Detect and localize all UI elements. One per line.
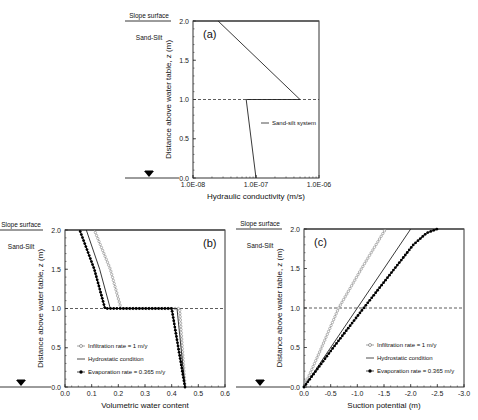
series-marker-evaporation	[174, 329, 177, 332]
series-marker-evaporation	[435, 228, 438, 231]
series-marker-infiltration	[375, 243, 377, 245]
series-marker-infiltration	[179, 312, 181, 314]
legend-entry-label: Hydrostatic condition	[88, 356, 144, 362]
series-marker-evaporation	[314, 370, 317, 373]
series-marker-infiltration	[94, 231, 96, 233]
series-marker-evaporation	[337, 339, 340, 342]
series-marker-evaporation	[172, 316, 175, 319]
legend: Infiltration rate = 1 m/yHydrostatic con…	[366, 342, 454, 374]
x-tick-label: 0.0	[299, 390, 309, 397]
series-marker-evaporation	[353, 319, 356, 322]
series-marker-evaporation	[106, 307, 109, 310]
x-tick-label: 0.6	[220, 390, 230, 397]
series-marker-evaporation	[322, 360, 325, 363]
panel-label: (b)	[203, 237, 216, 249]
series-marker-evaporation	[101, 297, 104, 300]
chart-panel-b: 0.00.51.01.52.00.00.10.20.30.40.50.6Volu…	[0, 221, 230, 410]
y-axis-title: Distance above water table, z (m)	[164, 40, 173, 159]
figure-canvas: 0.00.51.01.52.01.0E-081.0E-071.0E-06Hydr…	[0, 0, 478, 420]
series-marker-evaporation	[181, 373, 184, 376]
series-marker-evaporation	[86, 248, 89, 251]
series-marker-evaporation	[355, 317, 358, 320]
series-marker-infiltration	[341, 301, 343, 303]
series-marker-evaporation	[419, 237, 422, 240]
x-tick-label: 0.1	[87, 390, 97, 397]
series-marker-evaporation	[316, 368, 319, 371]
y-tick-label: 2.0	[290, 226, 300, 233]
series-marker-infiltration	[179, 316, 181, 318]
series-marker-infiltration	[382, 232, 384, 234]
series-marker-evaporation	[91, 263, 94, 266]
series-marker-evaporation	[374, 291, 377, 294]
series-marker-evaporation	[178, 354, 181, 357]
series-marker-infiltration	[321, 345, 323, 347]
series-marker-evaporation	[372, 294, 375, 297]
series-marker-infiltration	[109, 267, 111, 269]
series-marker-infiltration	[99, 243, 101, 245]
series-marker-evaporation	[175, 335, 178, 338]
series-marker-evaporation	[335, 342, 338, 345]
series-marker-infiltration	[112, 279, 114, 281]
series-marker-infiltration	[111, 273, 113, 275]
slope-surface-label: Slope surface	[129, 12, 169, 20]
series-marker-infiltration	[180, 325, 182, 327]
series-marker-infiltration	[327, 330, 329, 332]
series-marker-evaporation	[97, 282, 100, 285]
y-tick-label: 2.0	[51, 227, 61, 234]
series-marker-evaporation	[167, 307, 170, 310]
y-axis-title: Distance above water table, z (m)	[275, 248, 284, 367]
series-marker-evaporation	[183, 382, 186, 385]
series-marker-evaporation	[414, 241, 417, 244]
series-marker-infiltration	[111, 276, 113, 278]
series-marker-evaporation	[308, 378, 311, 381]
series-marker-infiltration	[118, 301, 120, 303]
series-marker-evaporation	[333, 345, 336, 348]
panel-label: (c)	[314, 236, 327, 248]
y-tick-label: 1.0	[51, 305, 61, 312]
series-marker-infiltration	[107, 264, 109, 266]
material-label: Sand-Silt	[8, 243, 35, 250]
series-marker-evaporation	[360, 309, 363, 312]
series-marker-evaporation	[362, 306, 365, 309]
series-marker-infiltration	[378, 238, 380, 240]
x-tick-label: 0.4	[167, 390, 177, 397]
y-tick-label: 1.0	[179, 96, 189, 103]
series-marker-evaporation	[173, 323, 176, 326]
series-marker-evaporation	[79, 230, 82, 233]
series-marker-evaporation	[318, 365, 321, 368]
y-tick-label: 0.5	[179, 135, 189, 142]
series-marker-infiltration	[372, 249, 374, 251]
series-marker-evaporation	[176, 338, 179, 341]
series-marker-evaporation	[102, 300, 105, 303]
series-marker-infiltration	[115, 289, 117, 291]
series-marker-infiltration	[117, 298, 119, 300]
series-marker-evaporation	[184, 386, 187, 389]
series-marker-evaporation	[402, 256, 405, 259]
series-marker-evaporation	[312, 373, 315, 376]
series-marker-evaporation	[349, 324, 352, 327]
series-marker-evaporation	[151, 307, 154, 310]
series-marker-evaporation	[147, 307, 150, 310]
series-marker-evaporation	[181, 370, 184, 373]
series-marker-infiltration	[370, 252, 372, 254]
series-marker-evaporation	[400, 259, 403, 262]
series-marker-infiltration	[346, 293, 348, 295]
series-marker-infiltration	[322, 342, 324, 344]
series-marker-evaporation	[128, 307, 131, 310]
series-marker-infiltration	[368, 254, 370, 256]
x-tick-label: 1.0E-07	[244, 181, 269, 188]
series-marker-evaporation	[180, 364, 183, 367]
series-marker-infiltration	[365, 260, 367, 262]
series-marker-infiltration	[325, 336, 327, 338]
series-marker-infiltration	[180, 328, 182, 330]
series-marker-infiltration	[358, 271, 360, 273]
series-marker-infiltration	[320, 348, 322, 350]
x-tick-label: -2.5	[431, 390, 443, 397]
series-marker-evaporation	[163, 307, 166, 310]
x-tick-label: -2.0	[405, 390, 417, 397]
series-marker-evaporation	[122, 307, 125, 310]
series-marker-evaporation	[368, 299, 371, 302]
series-marker-evaporation	[103, 306, 106, 309]
water-table-icon	[144, 171, 154, 177]
series-marker-evaporation	[83, 242, 86, 245]
